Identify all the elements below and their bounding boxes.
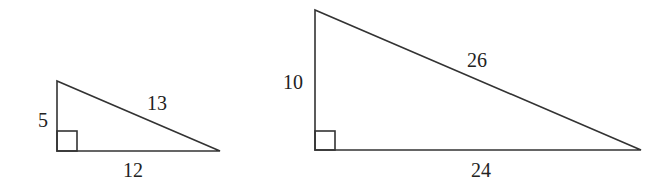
large-horizontal-leg-label: 24 bbox=[471, 159, 491, 181]
triangles-diagram: 5 13 12 10 26 24 bbox=[0, 0, 669, 192]
small-hypotenuse-label: 13 bbox=[147, 92, 167, 114]
large-triangle: 10 26 24 bbox=[283, 10, 641, 181]
right-angle-marker-icon bbox=[315, 131, 335, 150]
large-hypotenuse-label: 26 bbox=[467, 49, 487, 71]
small-triangle: 5 13 12 bbox=[38, 81, 220, 181]
small-vertical-leg-label: 5 bbox=[38, 109, 48, 131]
small-horizontal-leg-label: 12 bbox=[123, 159, 143, 181]
small-triangle-outline bbox=[57, 81, 220, 151]
large-vertical-leg-label: 10 bbox=[283, 71, 303, 93]
large-triangle-outline bbox=[315, 10, 641, 150]
right-angle-marker-icon bbox=[57, 131, 77, 151]
